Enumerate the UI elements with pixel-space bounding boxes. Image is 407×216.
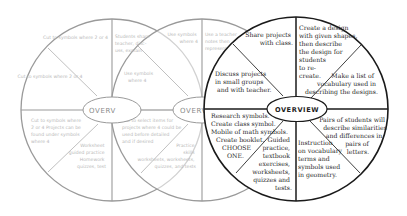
left-overview-label: OVERV xyxy=(89,107,116,115)
left-overview-oval[interactable]: OVERV xyxy=(83,97,141,123)
left-section-top-lower: Cut to symbols where 2 or 4 xyxy=(18,74,83,79)
overview-wheels-diagram: Cut to symbols where 2 or 4 Cut to symbo… xyxy=(0,0,407,216)
right-section-discuss-projects: Discuss projects in small groups and wit… xyxy=(215,70,272,93)
middle-overview-label: OVERV xyxy=(180,107,207,115)
right-overview-oval[interactable]: OVERVIEW xyxy=(267,97,327,122)
left-section-top-upper: Cut to symbols where 2 or 4 xyxy=(43,35,108,40)
right-overview-label: OVERVIEW xyxy=(275,106,319,114)
